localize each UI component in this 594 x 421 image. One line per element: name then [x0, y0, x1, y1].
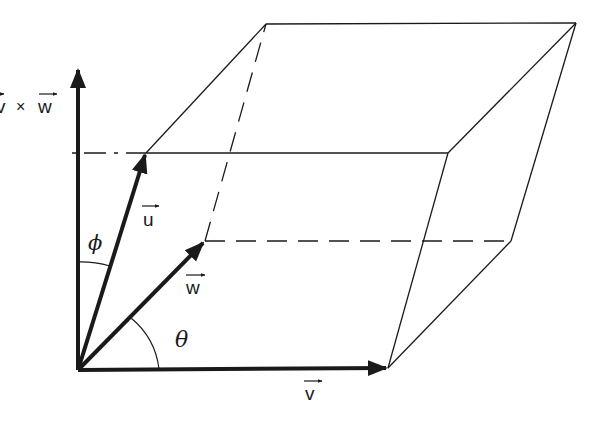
- theta-arc: [131, 318, 159, 369]
- u-label: u: [142, 206, 159, 230]
- edge-v-to-vw: [388, 241, 511, 368]
- solid-edges: [146, 23, 576, 368]
- svg-text:w: w: [37, 96, 52, 117]
- angle-arcs: [78, 262, 159, 369]
- svg-text:v: v: [305, 383, 315, 404]
- hidden-edges: [72, 24, 511, 241]
- phi-label: ϕ: [88, 231, 102, 255]
- edge-v-to-uv: [388, 153, 448, 368]
- cross-product-label: v × w: [0, 94, 57, 117]
- parallelepiped-diagram: v × w u w v ϕ θ: [0, 0, 594, 421]
- vector-v: [78, 368, 386, 370]
- svg-text:×: ×: [16, 98, 25, 115]
- vectors: [78, 70, 386, 370]
- v-label: v: [304, 381, 322, 404]
- w-label: w: [185, 275, 205, 298]
- svg-text:v: v: [0, 96, 6, 117]
- svg-text:u: u: [143, 209, 154, 230]
- edge-uw-to-uvw: [266, 23, 576, 24]
- theta-label: θ: [175, 327, 188, 352]
- svg-text:w: w: [185, 277, 200, 298]
- phi-arc: [78, 262, 110, 266]
